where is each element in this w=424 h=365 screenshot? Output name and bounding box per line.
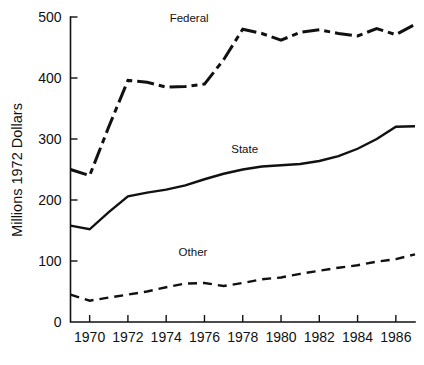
tick-marks bbox=[71, 17, 396, 322]
line-chart: 0100200300400500 19701972197419761978198… bbox=[0, 0, 424, 365]
x-tick-label: 1978 bbox=[227, 329, 258, 345]
x-tick-label: 1984 bbox=[342, 329, 373, 345]
y-tick-label: 500 bbox=[38, 9, 62, 25]
x-tick-label: 1970 bbox=[74, 329, 105, 345]
x-tick-label: 1980 bbox=[265, 329, 296, 345]
series-labels: FederalStateOther bbox=[170, 12, 258, 258]
series-label-state: State bbox=[231, 143, 258, 155]
x-tick-labels: 197019721974197619781980198219841986 bbox=[74, 329, 412, 345]
x-tick-label: 1986 bbox=[380, 329, 411, 345]
series-label-federal: Federal bbox=[170, 12, 209, 24]
data-series bbox=[71, 24, 416, 300]
y-tick-label: 200 bbox=[38, 192, 62, 208]
series-label-other: Other bbox=[179, 246, 208, 258]
y-tick-labels: 0100200300400500 bbox=[38, 9, 62, 330]
chart-figure: 0100200300400500 19701972197419761978198… bbox=[0, 0, 424, 365]
y-axis-title: Millions 1972 Dollars bbox=[9, 103, 25, 237]
series-line-state bbox=[71, 126, 416, 229]
y-tick-label: 300 bbox=[38, 131, 62, 147]
x-tick-label: 1972 bbox=[112, 329, 143, 345]
x-tick-label: 1982 bbox=[304, 329, 335, 345]
x-tick-label: 1974 bbox=[151, 329, 182, 345]
y-tick-label: 400 bbox=[38, 70, 62, 86]
x-tick-label: 1976 bbox=[189, 329, 220, 345]
y-tick-label: 100 bbox=[38, 253, 62, 269]
y-tick-label: 0 bbox=[54, 314, 62, 330]
series-line-other bbox=[71, 254, 416, 300]
